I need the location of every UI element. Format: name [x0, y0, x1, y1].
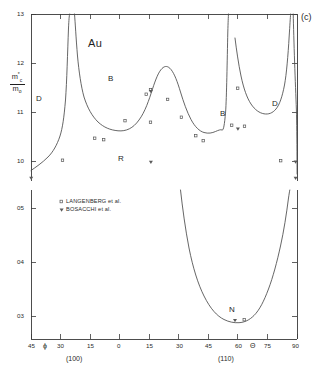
marker-bosacchi — [233, 319, 237, 322]
x-tick-label-6: 45 — [205, 343, 212, 349]
branch-label-B-right: B — [220, 110, 225, 118]
x-ticks — [31, 14, 297, 339]
material-label: Au — [88, 38, 102, 49]
x-tick-label-4: 15 — [146, 343, 153, 349]
y-tick-label-11: 11 — [17, 109, 23, 115]
figure-container: (c) Au m*c mo 13 12 11 10 05 04 03 45 30… — [0, 0, 322, 366]
curve-N-neck — [181, 190, 290, 323]
curve-B-central — [75, 14, 229, 133]
branch-label-D-left: D — [36, 95, 42, 103]
legend-marker-filled-triangle — [60, 209, 64, 212]
marker-langenberg — [166, 98, 168, 100]
y-axis-denominator: mo — [4, 85, 30, 95]
x-tick-label-5: 30 — [176, 343, 183, 349]
x-tick-label-2: 15 — [87, 343, 94, 349]
branch-label-B-left: B — [108, 75, 113, 83]
marker-langenberg — [61, 159, 63, 161]
lower-y-ticks — [31, 208, 297, 316]
y-tick-label-10: 10 — [17, 158, 24, 164]
x-tick-label-0: 45 — [28, 343, 35, 349]
marker-langenberg — [280, 160, 282, 162]
phi-symbol: ϕ — [43, 342, 47, 349]
x-tick-label-3: 0 — [117, 343, 120, 349]
upper-y-ticks — [31, 14, 297, 162]
branch-label-N: N — [229, 306, 235, 314]
marker-langenberg — [195, 135, 197, 137]
marker-langenberg — [237, 87, 239, 89]
x-tick-label-8: 75 — [264, 343, 271, 349]
chart-canvas — [0, 0, 322, 366]
y-tick-label-13: 13 — [17, 11, 24, 17]
marker-langenberg — [145, 93, 147, 95]
y-axis-label: m*c mo — [4, 72, 30, 95]
marker-langenberg — [243, 125, 245, 127]
marker-langenberg — [149, 121, 151, 123]
upper-panel-frame — [31, 14, 297, 181]
direction-label-110: (110) — [218, 355, 234, 362]
legend-item-bosacchi: BOSACCHI et al. — [66, 207, 111, 213]
marker-langenberg — [124, 120, 126, 122]
x-tick-label-7: 60 — [235, 343, 242, 349]
marker-langenberg — [243, 319, 245, 321]
y-tick-label-05: 05 — [17, 205, 24, 211]
curve-D-right — [293, 14, 297, 174]
theta-symbol: Θ — [250, 342, 255, 349]
upper-data-markers — [29, 87, 297, 180]
x-tick-label-1: 30 — [57, 343, 64, 349]
marker-bosacchi — [236, 128, 240, 131]
y-tick-label-04: 04 — [17, 259, 24, 265]
curve-D-left — [31, 14, 70, 171]
marker-langenberg — [180, 116, 182, 118]
legend-marker-open-square — [60, 200, 63, 203]
branch-label-R: R — [118, 155, 124, 163]
legend-markers — [60, 200, 64, 212]
curve-B-right — [235, 14, 291, 114]
y-tick-label-12: 12 — [17, 60, 24, 66]
marker-langenberg — [202, 140, 204, 142]
marker-bosacchi — [29, 177, 33, 180]
y-tick-label-03: 03 — [17, 313, 24, 319]
direction-label-100: (100) — [66, 355, 82, 362]
marker-langenberg — [231, 124, 233, 126]
marker-langenberg — [94, 137, 96, 139]
y-axis-numerator: m*c — [4, 72, 30, 83]
legend-item-langenberg: LANGENBERG et al. — [66, 199, 121, 205]
x-tick-label-9: 90 — [292, 343, 299, 349]
marker-langenberg — [103, 139, 105, 141]
marker-bosacchi — [149, 161, 153, 164]
panel-tag: (c) — [301, 13, 312, 22]
marker-bosacchi — [149, 90, 153, 93]
branch-label-D-right: D — [272, 100, 278, 108]
